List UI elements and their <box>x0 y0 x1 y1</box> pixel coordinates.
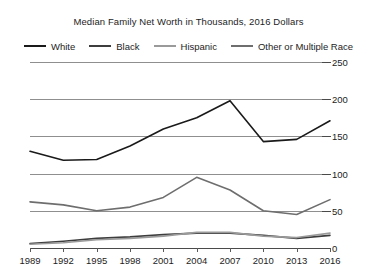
x-axis-line <box>30 248 330 249</box>
y-tick-mark <box>322 136 331 137</box>
legend-swatch-icon <box>89 45 111 47</box>
legend-item-other-or-multiple-race[interactable]: Other or Multiple Race <box>231 41 353 52</box>
legend-label: White <box>51 41 75 52</box>
legend-label: Black <box>116 41 139 52</box>
chart-title: Median Family Net Worth in Thousands, 20… <box>0 16 377 27</box>
x-tick-mark <box>63 248 64 252</box>
chart-legend: WhiteBlackHispanicOther or Multiple Race <box>0 38 377 54</box>
legend-item-black[interactable]: Black <box>89 41 139 52</box>
x-tick-mark <box>263 248 264 252</box>
y-tick-label: 100 <box>332 168 348 179</box>
y-tick-label: 0 <box>332 243 337 254</box>
x-tick-mark <box>330 248 331 252</box>
legend-item-white[interactable]: White <box>24 41 75 52</box>
x-tick-label: 2001 <box>153 255 174 266</box>
legend-swatch-icon <box>154 45 176 47</box>
y-tick-label: 200 <box>332 94 348 105</box>
y-tick-mark <box>322 99 331 100</box>
y-tick-mark <box>322 211 331 212</box>
chart-container: Median Family Net Worth in Thousands, 20… <box>0 0 377 278</box>
x-tick-mark <box>130 248 131 252</box>
y-tick-label: 250 <box>332 57 348 68</box>
x-tick-label: 1998 <box>119 255 140 266</box>
x-tick-mark <box>97 248 98 252</box>
legend-item-hispanic[interactable]: Hispanic <box>154 41 217 52</box>
y-tick-mark <box>322 62 331 63</box>
x-tick-label: 2004 <box>186 255 207 266</box>
series-line-white <box>30 101 330 161</box>
legend-swatch-icon <box>231 45 253 47</box>
x-tick-label: 2010 <box>253 255 274 266</box>
plot-area <box>30 62 330 248</box>
legend-label: Hispanic <box>181 41 217 52</box>
x-tick-mark <box>30 248 31 252</box>
x-tick-mark <box>163 248 164 252</box>
x-tick-label: 2016 <box>319 255 340 266</box>
x-tick-mark <box>230 248 231 252</box>
x-tick-label: 1995 <box>86 255 107 266</box>
y-tick-mark <box>322 174 331 175</box>
legend-label: Other or Multiple Race <box>258 41 353 52</box>
x-tick-mark <box>297 248 298 252</box>
x-tick-label: 1992 <box>53 255 74 266</box>
series-line-other-or-multiple-race <box>30 177 330 214</box>
x-tick-mark <box>197 248 198 252</box>
legend-swatch-icon <box>24 45 46 47</box>
x-tick-label: 2013 <box>286 255 307 266</box>
x-tick-label: 2007 <box>219 255 240 266</box>
x-tick-label: 1989 <box>19 255 40 266</box>
series-line-hispanic <box>30 232 330 244</box>
y-tick-label: 150 <box>332 131 348 142</box>
y-tick-label: 50 <box>332 205 343 216</box>
series-lines <box>30 62 330 248</box>
